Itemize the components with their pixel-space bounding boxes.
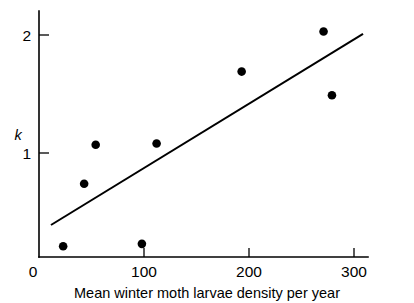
- data-point: [319, 27, 328, 36]
- y-axis-title: k: [14, 127, 22, 143]
- data-point: [152, 139, 161, 148]
- scatter-plot-figure: 2 1 0 100 200 300 k Mean winter moth lar…: [0, 0, 414, 303]
- data-point: [237, 67, 246, 76]
- x-tick-label-0: 0: [29, 263, 38, 280]
- data-point: [80, 179, 89, 188]
- y-tick-label-1: 1: [22, 145, 31, 162]
- y-tick-label-2: 2: [22, 27, 31, 44]
- data-point: [328, 91, 337, 100]
- data-point: [138, 240, 147, 249]
- x-tick-label-300: 300: [341, 263, 367, 280]
- data-point: [91, 140, 100, 149]
- x-tick-label-100: 100: [131, 263, 157, 280]
- x-tick-label-200: 200: [236, 263, 262, 280]
- x-axis-title: Mean winter moth larvae density per year: [74, 285, 340, 301]
- data-point: [59, 242, 68, 251]
